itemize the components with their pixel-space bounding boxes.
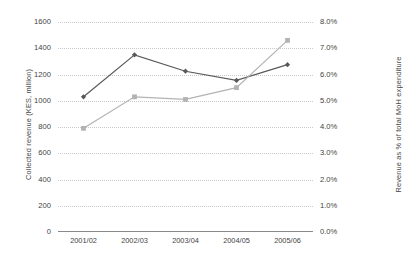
- left-tick-label: 1600: [11, 17, 51, 26]
- left-tick-label: 1000: [11, 96, 51, 105]
- right-tick-label: 7.0%: [320, 43, 360, 52]
- right-tick-label: 0.0%: [320, 227, 360, 236]
- data-point-marker: [285, 62, 290, 67]
- right-tick-label: 2.0%: [320, 175, 360, 184]
- right-axis-title: Revenue as % of total MoH expenditure: [394, 30, 403, 220]
- right-tick-label: 6.0%: [320, 70, 360, 79]
- data-point-marker: [183, 97, 188, 102]
- left-tick-label: 200: [11, 201, 51, 210]
- left-tick-label: 400: [11, 175, 51, 184]
- data-point-marker: [234, 78, 239, 83]
- left-tick-label: 600: [11, 148, 51, 157]
- left-tick-label: 1400: [11, 43, 51, 52]
- data-point-marker: [183, 69, 188, 74]
- series-line-0: [84, 55, 288, 97]
- right-tick-label: 3.0%: [320, 148, 360, 157]
- right-tick-label: 4.0%: [320, 122, 360, 131]
- right-tick-label: 8.0%: [320, 17, 360, 26]
- series-plot: [58, 22, 313, 232]
- x-tick-label: 2005/06: [258, 236, 318, 245]
- data-point-marker: [132, 94, 137, 99]
- series-line-1: [84, 40, 288, 128]
- left-tick-label: 800: [11, 122, 51, 131]
- right-tick-label: 5.0%: [320, 96, 360, 105]
- data-point-marker: [285, 38, 290, 43]
- right-tick-label: 1.0%: [320, 201, 360, 210]
- revenue-line-chart: Collected revenue (KES, million) Revenue…: [0, 0, 403, 260]
- plot-area: 02004006008001000120014001600 0.0%1.0%2.…: [58, 22, 313, 232]
- left-tick-label: 1200: [11, 70, 51, 79]
- data-point-marker: [234, 85, 239, 90]
- left-tick-label: 0: [11, 227, 51, 236]
- data-point-marker: [81, 126, 86, 131]
